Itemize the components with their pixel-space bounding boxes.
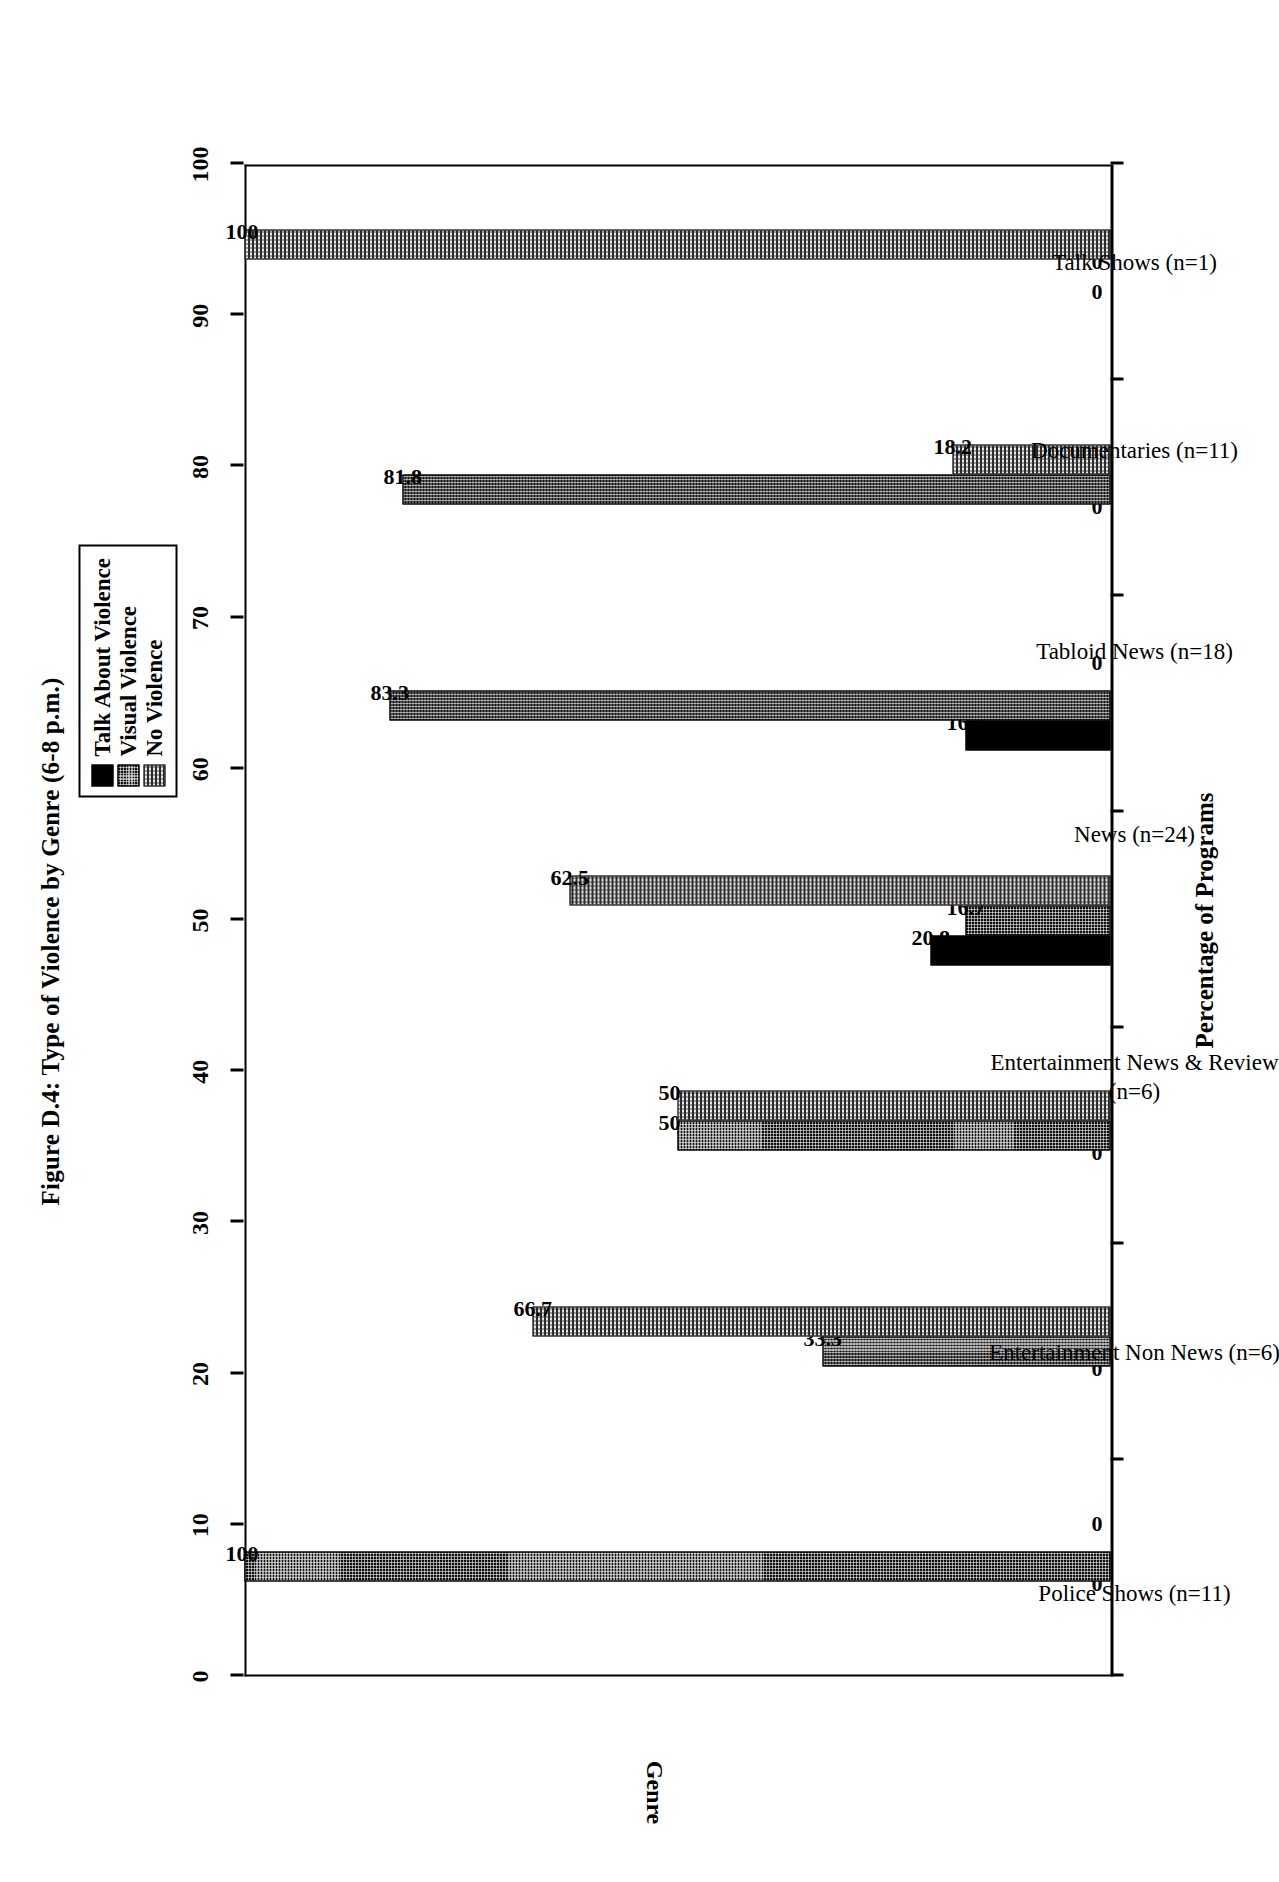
value-axis-labels: 0102030405060708090100 bbox=[186, 164, 216, 1676]
category-axis-tick bbox=[1110, 161, 1123, 164]
bar[interactable] bbox=[569, 875, 1110, 905]
value-axis-tick bbox=[230, 1673, 243, 1676]
value-axis-tick-label: 50 bbox=[186, 908, 213, 932]
value-axis-tick-label: 100 bbox=[186, 146, 213, 182]
bar-slot: 18.2 bbox=[246, 444, 1110, 474]
bar[interactable] bbox=[389, 690, 1110, 720]
bar[interactable] bbox=[244, 229, 1110, 259]
bar-slot: 33.3 bbox=[246, 1336, 1110, 1366]
value-axis-tick-label: 40 bbox=[186, 1059, 213, 1083]
bar-slot: 100 bbox=[246, 1551, 1110, 1581]
legend-item-no-violence: No Violence bbox=[142, 557, 165, 786]
category-axis-tick-label: News (n=24) bbox=[1074, 821, 1195, 965]
bar-group: 01000 bbox=[246, 1459, 1110, 1674]
bar-slot: 0 bbox=[246, 660, 1110, 690]
bar-slot: 20.8 bbox=[246, 935, 1110, 965]
bar-group: 033.366.7 bbox=[246, 1243, 1110, 1458]
figure-title: Figure D.4: Type of Violence by Genre (6… bbox=[36, 0, 64, 1882]
bar[interactable] bbox=[532, 1306, 1110, 1336]
category-axis-tick bbox=[1110, 1241, 1123, 1244]
value-axis-tick bbox=[230, 917, 243, 920]
bar-value-label: 66.7 bbox=[513, 1295, 552, 1321]
bar-group: 081.818.2 bbox=[246, 381, 1110, 596]
bar-slot: 16.7 bbox=[246, 720, 1110, 750]
category-axis-tick-label: Entertainment Non News (n=6) bbox=[989, 1338, 1279, 1482]
value-axis-title: Percentage of Programs bbox=[1190, 164, 1218, 1676]
bar-slot: 0 bbox=[246, 1521, 1110, 1551]
value-axis-tick bbox=[230, 615, 243, 618]
bar-slot: 16.7 bbox=[246, 905, 1110, 935]
legend-swatch-no-violence bbox=[143, 764, 165, 786]
bar-value-label: 100 bbox=[225, 218, 258, 244]
legend-label-no-violence: No Violence bbox=[142, 639, 165, 756]
bar-slot: 83.3 bbox=[246, 690, 1110, 720]
category-axis-title: Genre bbox=[640, 1702, 667, 1882]
bar[interactable] bbox=[244, 1551, 1110, 1581]
value-axis-tick bbox=[230, 312, 243, 315]
bar-slot: 0 bbox=[246, 259, 1110, 289]
value-axis-tick-label: 30 bbox=[186, 1210, 213, 1234]
value-axis-tick-label: 0 bbox=[186, 1670, 213, 1682]
legend-label-talk-about-violence: Talk About Violence bbox=[90, 557, 113, 756]
category-axis-tick bbox=[1110, 809, 1123, 812]
bar-value-label: 18.2 bbox=[933, 433, 972, 459]
bar-group: 00100 bbox=[246, 166, 1110, 381]
value-axis-tick bbox=[230, 766, 243, 769]
bar-slot: 0 bbox=[246, 504, 1110, 534]
value-axis-tick bbox=[230, 1068, 243, 1071]
bar-slot: 100 bbox=[246, 229, 1110, 259]
bar-group: 05050 bbox=[246, 1028, 1110, 1243]
bar-value-label: 50 bbox=[658, 1079, 680, 1105]
value-axis-tick-label: 70 bbox=[186, 606, 213, 630]
plot-area: 01000033.366.70505020.816.762.516.783.30… bbox=[244, 164, 1110, 1676]
bar-groups: 01000033.366.70505020.816.762.516.783.30… bbox=[246, 166, 1110, 1674]
bar-slot: 50 bbox=[246, 1090, 1110, 1120]
bar-slot: 0 bbox=[246, 1581, 1110, 1611]
category-axis-tick-label: Entertainment News & Review (n=6) bbox=[990, 1049, 1278, 1193]
bar-group: 16.783.30 bbox=[246, 597, 1110, 812]
legend-swatch-talk-about-violence bbox=[91, 764, 113, 786]
value-axis-tick bbox=[230, 1371, 243, 1374]
legend-swatch-visual-violence bbox=[117, 764, 139, 786]
bar-slot: 0 bbox=[246, 1366, 1110, 1396]
value-axis-tick bbox=[230, 1219, 243, 1222]
value-axis-tick-label: 20 bbox=[186, 1362, 213, 1386]
chart-legend: Talk About Violence Visual Violence No V… bbox=[78, 544, 177, 797]
category-axis-tick bbox=[1110, 593, 1123, 596]
bar-slot: 0 bbox=[246, 1150, 1110, 1180]
bar-value-label: 0 bbox=[1091, 1510, 1102, 1536]
legend-item-talk-about-violence: Talk About Violence bbox=[90, 557, 113, 786]
value-axis-tick-label: 90 bbox=[186, 303, 213, 327]
value-axis-tick bbox=[230, 463, 243, 466]
value-axis-tick-label: 60 bbox=[186, 757, 213, 781]
bar-value-label: 62.5 bbox=[550, 864, 589, 890]
category-axis-tick bbox=[1110, 1025, 1123, 1028]
bar[interactable] bbox=[402, 474, 1110, 504]
bar-group: 20.816.762.5 bbox=[246, 812, 1110, 1027]
value-axis-tick bbox=[230, 1522, 243, 1525]
value-axis-tick-label: 10 bbox=[186, 1513, 213, 1537]
legend-item-visual-violence: Visual Violence bbox=[116, 557, 139, 786]
bar-slot: 50 bbox=[246, 1120, 1110, 1150]
bar-slot: 62.5 bbox=[246, 875, 1110, 905]
legend-label-visual-violence: Visual Violence bbox=[116, 605, 139, 756]
bar-slot: 81.8 bbox=[246, 474, 1110, 504]
value-axis-tick-label: 80 bbox=[186, 454, 213, 478]
value-axis-tick bbox=[230, 161, 243, 164]
bar-slot: 66.7 bbox=[246, 1306, 1110, 1336]
bar-slot: 0 bbox=[246, 289, 1110, 319]
